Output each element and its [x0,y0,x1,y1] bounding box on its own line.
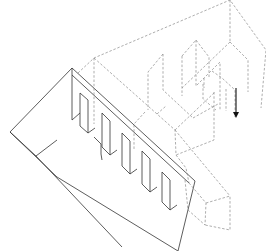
dashed-projection-line [196,40,220,110]
solid-edge [102,113,110,155]
down-arrow-icon [233,88,239,118]
drawing-svg [0,0,266,251]
dashed-projection-line [175,130,230,196]
dashed-projection-line [182,42,230,88]
dashed-projection-line [157,106,166,114]
solid-edge [142,151,150,192]
solid-edge [72,75,189,183]
solid-edge [130,169,137,174]
axonometric-drawing [0,0,266,251]
dashed-projection-line [212,71,235,117]
dashed-projection-line [134,112,145,150]
dashed-projection-line [205,196,230,230]
dashed-projection-line [175,92,215,130]
dashed-projection-line [163,54,193,118]
dashed-projection-line [78,0,266,108]
solid-edge [94,137,102,160]
dashed-projection-line [148,54,163,110]
solid-edge [10,132,57,156]
dashed-projection-lines-group [78,0,266,230]
arrow-head [233,112,239,118]
dashed-projection-line [182,40,209,78]
solid-edge [88,128,95,133]
solid-edge [162,172,170,210]
solid-edge [150,187,157,192]
dashed-projection-line [185,180,205,225]
solid-edge [170,205,177,210]
solid-edge [36,156,122,247]
solid-edge [80,93,88,133]
dashed-projection-line [230,42,248,92]
solid-edge [110,150,117,155]
solid-lines-group [10,68,195,251]
solid-edge [122,133,130,174]
